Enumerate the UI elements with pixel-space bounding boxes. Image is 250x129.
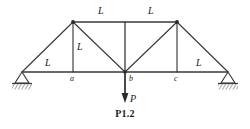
dimension-label-vertical: L [77, 42, 83, 52]
right-support [218, 72, 238, 90]
left-support-ground-hatch [12, 84, 32, 90]
dimension-label-top-right: L [148, 6, 154, 16]
joint-top-left [71, 20, 75, 24]
member-diagonal-right [125, 22, 177, 72]
dimension-label-bottom-right: L [196, 58, 202, 68]
node-label-c: c [174, 75, 178, 83]
right-support-triangle [221, 72, 235, 83]
dimension-label-bottom-left: L [45, 58, 51, 68]
left-support-triangle [15, 72, 29, 83]
dimension-label-top-left: L [98, 6, 104, 16]
member-right-end-post [177, 22, 228, 72]
node-label-b: b [129, 75, 133, 83]
joint-top-right [175, 20, 179, 24]
figure-caption: P1.2 [0, 108, 250, 119]
load-arrow-p [122, 72, 129, 103]
truss-figure: L L L L L a b c P P1.2 [0, 0, 250, 129]
right-support-ground-hatch [218, 84, 238, 90]
node-label-a: a [70, 75, 74, 83]
load-label-p: P [130, 94, 136, 104]
left-support [12, 72, 32, 90]
load-arrow-head [122, 93, 129, 103]
